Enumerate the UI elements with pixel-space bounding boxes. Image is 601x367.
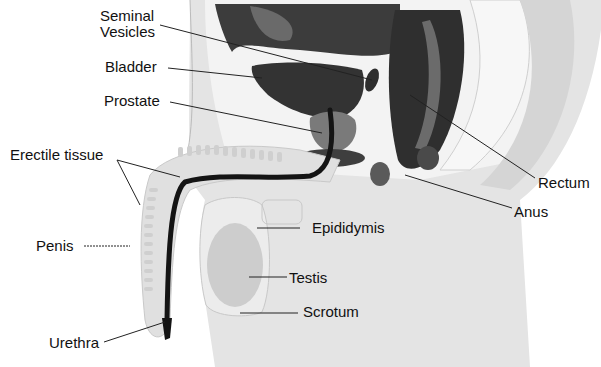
label-testis: Testis — [289, 270, 327, 286]
label-epididymis: Epididymis — [312, 220, 385, 236]
label-bladder: Bladder — [105, 59, 157, 75]
label-urethra: Urethra — [49, 335, 99, 351]
testis — [207, 223, 263, 307]
muscle-blob-1 — [370, 162, 390, 186]
muscle-blob-2 — [417, 146, 439, 170]
anatomy-diagram — [0, 0, 601, 367]
label-scrotum: Scrotum — [303, 304, 359, 320]
urethra-tip — [162, 318, 172, 340]
label-seminal-line2: Vesicles — [100, 24, 155, 40]
label-seminal-vesicles: Seminal Vesicles — [100, 8, 155, 40]
label-anus: Anus — [514, 204, 548, 220]
label-seminal-line1: Seminal — [100, 8, 155, 24]
label-rectum: Rectum — [538, 175, 590, 191]
label-erectile-tissue: Erectile tissue — [10, 147, 103, 163]
label-penis: Penis — [36, 238, 74, 254]
label-prostate: Prostate — [104, 93, 160, 109]
